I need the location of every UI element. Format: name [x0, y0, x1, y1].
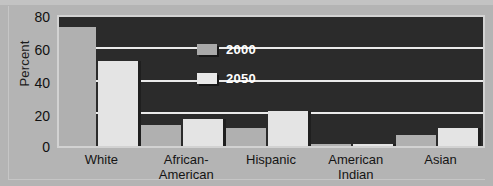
x-label-white: White	[59, 152, 144, 167]
y-tick-label-40: 40	[22, 76, 50, 90]
bar-2050-african-american	[183, 119, 223, 146]
bar-2050-asian	[438, 128, 478, 146]
gridline-60	[59, 47, 483, 49]
legend-swatch-2050-icon	[197, 73, 217, 84]
y-axis-title: Percent	[17, 24, 32, 104]
x-label-african-american: African-American	[144, 152, 229, 182]
bar-2000-african-american	[141, 125, 181, 146]
legend-item-2000: 2000	[197, 35, 256, 64]
legend-item-2050: 2050	[197, 64, 256, 93]
bar-2050-hispanic	[268, 111, 308, 146]
legend-label-2000: 2000	[226, 42, 256, 57]
y-tick-label-80: 80	[22, 10, 50, 24]
x-label-american-indian: AmericanIndian	[313, 152, 398, 182]
bar-2050-american-indian	[353, 144, 393, 146]
bar-2000-hispanic	[226, 128, 266, 146]
bar-2050-white	[98, 61, 138, 146]
x-label-asian: Asian	[398, 152, 483, 167]
figure-frame-left	[8, 6, 9, 180]
y-tick-label-60: 60	[22, 43, 50, 57]
plot-area: 2000 2050	[57, 15, 485, 148]
y-tick-label-0: 0	[22, 140, 50, 154]
y-tick-label-20: 20	[22, 109, 50, 123]
gridline-80	[59, 15, 483, 17]
x-label-hispanic: Hispanic	[229, 152, 314, 167]
legend: 2000 2050	[197, 35, 256, 93]
bar-chart-figure: Percent 80 60 40 20 0 2000 2050 WhiteAfr…	[0, 0, 493, 186]
bar-2000-asian	[396, 135, 436, 146]
legend-label-2050: 2050	[226, 71, 256, 86]
legend-swatch-2000-icon	[197, 44, 217, 55]
bar-2000-american-indian	[311, 144, 351, 146]
figure-frame-bottom	[8, 179, 485, 180]
bar-2000-white	[57, 27, 96, 146]
